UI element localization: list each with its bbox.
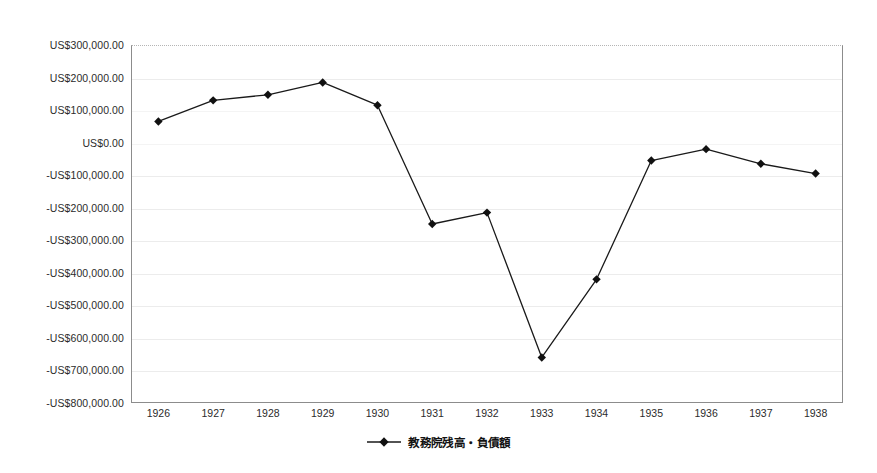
chart-container: US$300,000.00US$200,000.00US$100,000.00U…	[0, 0, 877, 473]
data-point-marker	[373, 101, 381, 109]
y-axis-tick-label: -US$800,000.00	[4, 397, 124, 409]
data-point-marker	[483, 208, 491, 216]
x-axis-tick-label: 1928	[238, 407, 298, 419]
y-axis-tick-label: -US$200,000.00	[4, 202, 124, 214]
chart-legend: 教務院残高・負債額	[0, 434, 877, 450]
x-axis-tick-label: 1926	[128, 407, 188, 419]
x-axis-tick-label: 1934	[567, 407, 627, 419]
x-axis-tick-label: 1931	[402, 407, 462, 419]
x-axis-tick-label: 1933	[512, 407, 572, 419]
x-axis-tick-label: 1930	[347, 407, 407, 419]
x-axis-tick-label: 1938	[786, 407, 846, 419]
data-point-marker	[428, 220, 436, 228]
x-axis-tick-label: 1937	[731, 407, 791, 419]
x-axis-tick-label: 1927	[183, 407, 243, 419]
y-axis-tick-label: -US$700,000.00	[4, 364, 124, 376]
data-point-marker	[538, 353, 546, 361]
y-axis-tick-label: -US$100,000.00	[4, 169, 124, 181]
x-axis-tick-label: 1936	[676, 407, 736, 419]
series-line	[158, 82, 815, 357]
legend-entry-label: 教務院残高・負債額	[408, 434, 511, 450]
data-point-marker	[209, 96, 217, 104]
data-point-marker	[592, 275, 600, 283]
y-axis-tick-label: US$200,000.00	[4, 72, 124, 84]
data-point-marker	[318, 78, 326, 86]
x-axis-tick-label: 1935	[621, 407, 681, 419]
data-point-marker	[264, 91, 272, 99]
x-axis-label-group: 1926192719281929193019311932193319341935…	[131, 407, 843, 425]
x-axis-tick-label: 1932	[457, 407, 517, 419]
data-point-marker	[757, 160, 765, 168]
x-axis-tick-label: 1929	[293, 407, 353, 419]
y-axis-tick-label: -US$600,000.00	[4, 332, 124, 344]
data-point-marker	[811, 169, 819, 177]
y-axis-tick-label: -US$400,000.00	[4, 267, 124, 279]
diamond-marker-icon	[366, 436, 402, 448]
y-axis-tick-label: US$300,000.00	[4, 39, 124, 51]
y-axis-tick-label: -US$500,000.00	[4, 299, 124, 311]
y-axis-tick-label: US$0.00	[4, 137, 124, 149]
data-point-marker	[647, 156, 655, 164]
y-axis-tick-label: -US$300,000.00	[4, 234, 124, 246]
data-point-marker	[154, 117, 162, 125]
y-axis-label-group: US$300,000.00US$200,000.00US$100,000.00U…	[0, 0, 124, 473]
y-axis-tick-label: US$100,000.00	[4, 104, 124, 116]
data-point-marker	[702, 145, 710, 153]
data-series-layer	[131, 45, 843, 403]
